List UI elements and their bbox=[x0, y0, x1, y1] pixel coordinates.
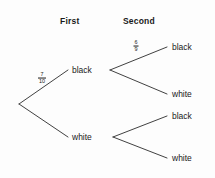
tree-branch-line bbox=[113, 137, 167, 158]
tree-branch-line bbox=[110, 70, 167, 94]
node-label-black-black: black bbox=[172, 42, 192, 52]
probability-tree-diagram: First Second black white black white bla… bbox=[0, 0, 215, 178]
node-label-white-white: white bbox=[172, 153, 192, 163]
probability-label-first-black: 7 10 bbox=[38, 72, 46, 85]
fraction-denominator: 9 bbox=[134, 46, 139, 53]
node-label-white-black: black bbox=[172, 111, 192, 121]
node-label-black-white: white bbox=[172, 89, 192, 99]
tree-branch-line bbox=[113, 116, 167, 137]
column-header-second: Second bbox=[123, 16, 155, 26]
node-label-first-white: white bbox=[72, 132, 92, 142]
node-label-first-black: black bbox=[72, 65, 92, 75]
probability-label-black-black: 6 9 bbox=[134, 40, 139, 53]
tree-branch-line bbox=[19, 104, 68, 137]
column-header-first: First bbox=[60, 16, 79, 26]
fraction-denominator: 10 bbox=[38, 78, 46, 85]
tree-branch-line bbox=[110, 47, 167, 70]
